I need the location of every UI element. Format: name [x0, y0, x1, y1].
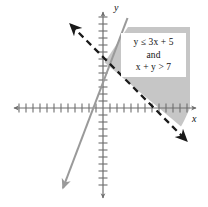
inequality-graph-figure: y x y ≤ 3x + 5 and x + y > 7	[0, 0, 208, 207]
y-axis-label: y	[114, 3, 118, 13]
x-axis-label: x	[192, 114, 196, 124]
inequality-line-1: y ≤ 3x + 5	[123, 36, 184, 49]
inequality-conjunction: and	[123, 49, 184, 62]
inequality-annotation-box: y ≤ 3x + 5 and x + y > 7	[121, 33, 186, 77]
coordinate-plane	[0, 0, 208, 207]
y-axis	[99, 12, 108, 198]
inequality-line-2: x + y > 7	[123, 61, 184, 74]
boundary-solid-line	[63, 18, 128, 188]
